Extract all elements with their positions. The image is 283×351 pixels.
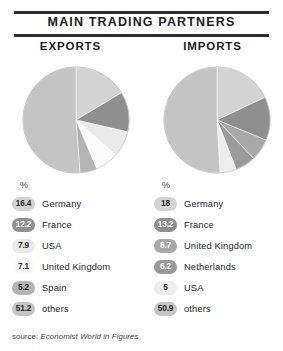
source-line: source: Economist World in Figures	[12, 332, 139, 341]
legend-value-swatch: 18	[154, 197, 177, 211]
legend-entry-label: France	[42, 220, 72, 230]
imports-pie-svg	[163, 66, 271, 174]
legend-row: 5.2Spain	[12, 277, 141, 298]
legend-entry-label: Spain	[42, 283, 67, 293]
legend-row: 50.9others	[154, 298, 283, 319]
legend-value-swatch: 7.1	[12, 260, 35, 274]
legend-entry-label: Netherlands	[184, 262, 236, 272]
legend-value-swatch: 51.2	[12, 302, 35, 316]
exports-pie-svg	[22, 66, 130, 174]
legend-entry-label: others	[184, 304, 211, 314]
exports-legend: % 16.4Germany12.2France7.9USA7.1United K…	[0, 180, 141, 319]
legend-entry-label: United Kingdom	[184, 241, 252, 251]
infographic-sheet: MAIN TRADING PARTNERS EXPORTS IMPORTS % …	[0, 0, 283, 351]
pie-slice-others	[164, 67, 220, 173]
exports-percent-label: %	[20, 180, 141, 190]
legend-value-swatch: 5.2	[12, 281, 35, 295]
legend-row: 16.4Germany	[12, 193, 141, 214]
exports-caption: EXPORTS	[0, 40, 141, 52]
imports-percent-label: %	[162, 180, 283, 190]
legend-row: 7.1United Kingdom	[12, 256, 141, 277]
legend-value-swatch: 5	[154, 281, 177, 295]
legend-entry-label: Germany	[184, 199, 223, 209]
legend-entry-label: others	[42, 304, 69, 314]
exports-pie-chart	[22, 66, 130, 174]
legend-value-swatch: 13.2	[154, 218, 177, 232]
legend-value-swatch: 50.9	[154, 302, 177, 316]
legend-entry-label: USA	[184, 283, 204, 293]
legend-value-swatch: 6.7	[154, 239, 177, 253]
legend-row: 18Germany	[154, 193, 283, 214]
legend-row: 51.2others	[12, 298, 141, 319]
page-title: MAIN TRADING PARTNERS	[0, 14, 283, 31]
legend-value-swatch: 7.9	[12, 239, 35, 253]
legend-entry-label: United Kingdom	[42, 262, 110, 272]
legend-value-swatch: 6.2	[154, 260, 177, 274]
legend-row: 5USA	[154, 277, 283, 298]
legend-row: 7.9USA	[12, 235, 141, 256]
pie-slice-others	[23, 67, 80, 173]
legend-entry-label: Germany	[42, 199, 81, 209]
legend-row: 12.2France	[12, 214, 141, 235]
source-prefix: source:	[12, 332, 38, 341]
imports-pie-chart	[163, 66, 271, 174]
legend-row: 6.7United Kingdom	[154, 235, 283, 256]
imports-caption: IMPORTS	[142, 40, 283, 52]
legend-row: 13.2France	[154, 214, 283, 235]
imports-legend: % 18Germany13.2France6.7United Kingdom6.…	[142, 180, 283, 319]
legend-row: 6.2Netherlands	[154, 256, 283, 277]
source-title: Economist World in Figures	[41, 332, 139, 341]
legend-value-swatch: 16.4	[12, 197, 35, 211]
header-rule-bottom	[14, 34, 269, 37]
legend-entry-label: France	[184, 220, 214, 230]
legend-entry-label: USA	[42, 241, 62, 251]
legend-value-swatch: 12.2	[12, 218, 35, 232]
